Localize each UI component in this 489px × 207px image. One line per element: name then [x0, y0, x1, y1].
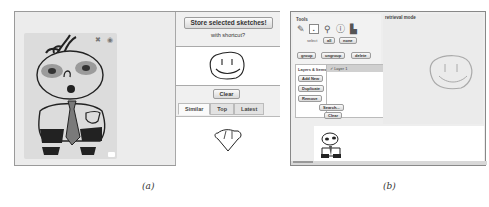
drawing-canvas[interactable]: ✖ ◉: [15, 12, 175, 165]
delete-button[interactable]: delete: [351, 52, 371, 59]
caption-b: (b): [383, 181, 396, 191]
shortcut-label: with shortcut?: [176, 32, 280, 38]
smiley-sketch: [176, 47, 280, 85]
select-label: select: [307, 38, 317, 43]
retrieval-sidebar: Store selected sketches! with shortcut? …: [175, 12, 280, 165]
clear-button[interactable]: Clear: [213, 89, 240, 99]
tools-panel: Tools ✎ ▪ ⚲ ⓘ ▙ select all none group un…: [293, 14, 381, 116]
layers-label: Layers & Items: [298, 67, 326, 72]
select-none-button[interactable]: none: [339, 37, 357, 44]
caption-a: (a): [142, 181, 154, 191]
tools-title: Tools: [296, 17, 308, 22]
tab-latest[interactable]: Latest: [234, 103, 264, 115]
clear-button-b[interactable]: Clear: [324, 112, 342, 119]
retrieval-canvas[interactable]: retrieval mode: [383, 14, 483, 124]
store-sketches-button[interactable]: Store selected sketches!: [184, 17, 273, 29]
sketch-editor-window-b: Tools ✎ ▪ ⚲ ⓘ ▙ select all none group un…: [290, 11, 486, 166]
cartoon-thumbnail[interactable]: [316, 130, 346, 162]
select-all-button[interactable]: all: [323, 37, 335, 44]
bucket-icon[interactable]: ▙: [348, 24, 358, 34]
pen-icon[interactable]: ✎: [296, 24, 306, 34]
remove-layer-button[interactable]: Remove: [298, 95, 322, 102]
group-button[interactable]: group: [297, 52, 316, 59]
result-sketch[interactable]: [176, 117, 280, 166]
layer-item[interactable]: ✓ Layer 1: [327, 65, 383, 72]
sketch-card[interactable]: ✖ ◉: [24, 33, 117, 159]
result-strip: [314, 126, 484, 164]
cartoon-man-sketch: [24, 33, 117, 159]
search-button[interactable]: Search...: [319, 104, 344, 111]
similar-results: [176, 116, 280, 166]
select-icon[interactable]: ▪: [309, 24, 319, 34]
status-bar: [291, 161, 487, 165]
info-icon[interactable]: ⓘ: [335, 24, 345, 34]
add-layer-button[interactable]: Add New: [298, 75, 323, 82]
result-tabs: Similar Top Latest: [178, 103, 264, 115]
duplicate-layer-button[interactable]: Duplicate: [298, 85, 324, 92]
tab-similar[interactable]: Similar: [178, 103, 210, 115]
sketch-retrieval-window-a: ✖ ◉ Store sele: [14, 11, 280, 166]
resize-handle[interactable]: [108, 152, 115, 157]
shortcut-sketch-area[interactable]: [176, 46, 280, 86]
ungroup-button[interactable]: ungroup: [321, 52, 345, 59]
tab-top[interactable]: Top: [210, 103, 234, 115]
faded-smiley-sketch: [383, 14, 483, 124]
magnifier-icon[interactable]: ⚲: [322, 24, 332, 34]
